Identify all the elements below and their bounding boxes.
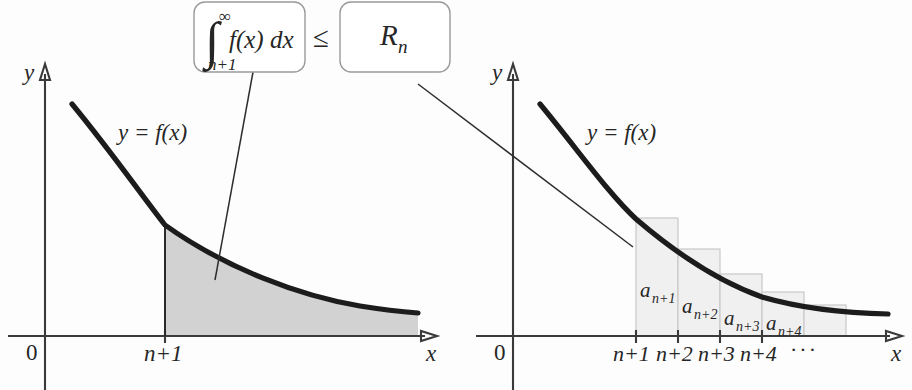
shaded-integral-region bbox=[165, 225, 418, 336]
integral-upper-limit: ∞ bbox=[219, 7, 231, 26]
right-x-tick-label-0: n+1 bbox=[613, 341, 650, 366]
right-y-axis-label: y bbox=[490, 60, 503, 85]
remainder-symbol: R bbox=[379, 19, 398, 51]
bar-label-sub-1: n+1 bbox=[652, 291, 675, 306]
bar-label-base-4: a bbox=[766, 311, 777, 335]
right-curve-label: y = f(x) bbox=[585, 120, 656, 145]
callout-remainder[interactable]: R n bbox=[340, 2, 450, 72]
integral-integrand: f(x) dx bbox=[229, 26, 294, 54]
left-y-axis-label: y bbox=[22, 60, 35, 85]
right-origin-label: 0 bbox=[494, 340, 506, 365]
left-plot: y x 0 y = f(x) n+1 bbox=[8, 60, 437, 390]
leader-line-integral bbox=[215, 72, 253, 280]
bar-label-sub-2: n+2 bbox=[694, 307, 717, 322]
bar-label-base-2: a bbox=[682, 294, 693, 318]
bar-label-base-3: a bbox=[724, 306, 735, 330]
bar-label-base-1: a bbox=[640, 278, 651, 302]
right-x-ellipsis: ··· bbox=[790, 337, 818, 362]
bar-label-sub-4: n+4 bbox=[778, 324, 801, 339]
right-x-tick-label-1: n+2 bbox=[656, 341, 693, 366]
bar-a-n-plus-2 bbox=[678, 249, 720, 336]
callout-integral[interactable]: ∫ ∞ n+1 f(x) dx bbox=[194, 2, 305, 74]
left-x-axis-label: x bbox=[425, 341, 437, 366]
leader-line-remainder bbox=[418, 84, 633, 247]
remainder-subscript: n bbox=[398, 36, 408, 57]
right-x-tick-label-2: n+3 bbox=[698, 341, 735, 366]
relation-symbol: ≤ bbox=[313, 21, 329, 53]
right-x-tick-label-3: n+4 bbox=[740, 341, 777, 366]
bar-label-sub-3: n+3 bbox=[736, 319, 759, 334]
left-x-tick-label: n+1 bbox=[144, 341, 183, 366]
figure-canvas: y x 0 y = f(x) n+1 bbox=[0, 0, 912, 390]
right-x-axis-label: x bbox=[890, 341, 902, 366]
left-origin-label: 0 bbox=[26, 340, 38, 365]
right-plot: y x 0 y = f(x) n+1 n+2 n+3 n+4 ··· a n+1… bbox=[476, 60, 902, 390]
math-figure: y x 0 y = f(x) n+1 bbox=[0, 0, 912, 390]
left-curve-label: y = f(x) bbox=[116, 120, 187, 145]
integral-lower-limit: n+1 bbox=[208, 55, 236, 74]
